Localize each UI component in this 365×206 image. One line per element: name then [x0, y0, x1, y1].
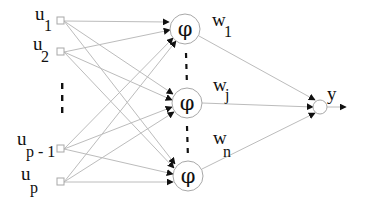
edge-u2-hj	[64, 52, 172, 100]
hidden-neuron-j: φ	[172, 88, 202, 118]
phi-icon: φ	[181, 164, 196, 188]
input-label-u1: u1	[35, 3, 52, 34]
input-ellipsis-icon	[61, 83, 63, 113]
phi-icon: φ	[178, 17, 193, 41]
edge-u2-hn	[64, 52, 174, 168]
edge-u1-hj	[64, 21, 173, 94]
input-hidden-edges	[64, 21, 176, 182]
weight-label-w1: w1	[212, 9, 232, 40]
output-neuron	[313, 100, 327, 114]
hidden-ellipsis-upper	[186, 53, 187, 86]
hidden-neuron-n: φ	[173, 161, 203, 191]
input-node-u2	[57, 48, 64, 55]
input-label-up: up	[21, 163, 38, 197]
neural-network-diagram: u1 u2 up - 1 up φ φ φ w1 wj wn y	[0, 0, 365, 206]
edge-u1-h1	[64, 21, 169, 22]
hidden-neuron-1: φ	[170, 14, 200, 44]
input-node-u1	[57, 17, 64, 24]
input-label-u2: u2	[33, 33, 49, 65]
phi-icon: φ	[180, 91, 195, 115]
edge-hj-y	[202, 103, 313, 107]
input-label-up-1: up - 1	[17, 128, 55, 161]
weight-label-wj: wj	[213, 74, 229, 104]
input-node-up-1	[57, 145, 64, 152]
hidden-ellipsis-lower	[187, 126, 188, 159]
output-label-y: y	[327, 83, 337, 104]
edge-up-hj	[64, 112, 174, 182]
weight-label-wn: wn	[213, 127, 231, 160]
input-node-up	[57, 178, 64, 185]
